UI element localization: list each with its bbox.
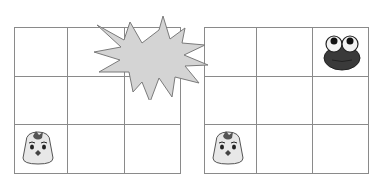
chick-icon <box>20 128 56 166</box>
grid-line <box>312 28 313 173</box>
frog-icon <box>322 32 362 72</box>
starburst-icon <box>92 10 210 100</box>
grid-line <box>205 76 368 77</box>
chick-icon <box>210 128 246 166</box>
grid-line <box>67 28 68 173</box>
grid-line <box>15 124 180 125</box>
grid-line <box>205 124 368 125</box>
grid-line <box>256 28 257 173</box>
